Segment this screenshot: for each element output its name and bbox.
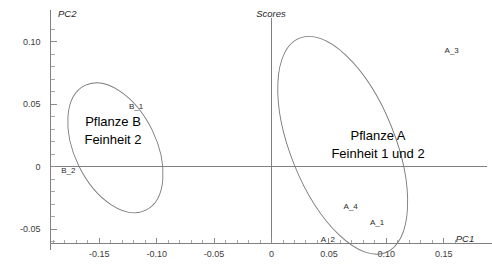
- y-axis-title: PC2: [58, 8, 77, 19]
- data-point-label: A_4: [344, 202, 359, 211]
- group-ellipse: [48, 68, 182, 229]
- y-tick-label: -0.05: [20, 224, 41, 234]
- data-point-label: A_2: [321, 235, 336, 244]
- chart-title: Scores: [256, 8, 286, 19]
- data-point-label: A_1: [370, 218, 385, 227]
- group-label-line: Feinheit 1 und 2: [331, 146, 424, 161]
- y-tick-label: 0: [35, 162, 40, 172]
- x-tick-label: 0.05: [320, 249, 338, 259]
- y-axis-tick-labels: -0.0500.050.10: [20, 37, 41, 235]
- x-tick-label: 0.15: [435, 249, 453, 259]
- y-axis-minor-ticks: [51, 29, 55, 242]
- y-tick-label: 0.05: [23, 99, 41, 109]
- y-axis-major-ticks: [51, 42, 57, 230]
- x-axis-minor-ticks: [53, 240, 455, 244]
- group-text-labels: Pflanze BFeinheit 2Pflanze AFeinheit 1 u…: [84, 114, 424, 161]
- plot-canvas: -0.15-0.10-0.0500.050.100.15 -0.0500.050…: [0, 0, 492, 274]
- group-label-line: Pflanze A: [351, 128, 406, 143]
- x-tick-label: -0.05: [204, 249, 225, 259]
- x-axis-title: PC1: [456, 233, 474, 244]
- x-axis-tick-labels: -0.15-0.10-0.0500.050.100.15: [89, 249, 452, 259]
- x-tick-label: -0.10: [146, 249, 167, 259]
- y-tick-label: 0.10: [23, 37, 41, 47]
- x-tick-label: 0: [269, 249, 274, 259]
- x-axis-major-ticks: [99, 238, 443, 244]
- data-point-label: A_3: [445, 46, 460, 55]
- scores-scatter-plot: -0.15-0.10-0.0500.050.100.15 -0.0500.050…: [0, 0, 492, 274]
- group-label-line: Feinheit 2: [84, 132, 141, 147]
- data-point-label: B_2: [61, 166, 76, 175]
- group-label-line: Pflanze B: [85, 114, 141, 129]
- x-tick-label: 0.10: [378, 249, 396, 259]
- x-tick-label: -0.15: [89, 249, 110, 259]
- data-point-label: B_1: [129, 102, 144, 111]
